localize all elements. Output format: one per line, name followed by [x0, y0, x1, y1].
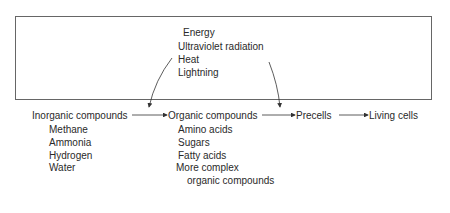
energy-source: Lightning — [178, 67, 219, 79]
inorganic-item: Hydrogen — [49, 150, 92, 162]
organic-item: Fatty acids — [178, 150, 226, 162]
inorganic-item: Water — [49, 162, 75, 174]
energy-title: Energy — [183, 27, 215, 39]
energy-to-precells-arrow — [269, 62, 280, 107]
energy-to-organic-arrow — [149, 58, 172, 107]
stage-label-inorganic: Inorganic compounds — [32, 110, 128, 122]
energy-source: Ultraviolet radiation — [178, 41, 264, 53]
stage-label-organic: Organic compounds — [168, 110, 258, 122]
organic-item: organic compounds — [187, 175, 274, 187]
inorganic-item: Methane — [49, 124, 88, 136]
organic-item: Sugars — [178, 137, 210, 149]
stage-label-precells: Precells — [296, 110, 332, 122]
energy-source: Heat — [178, 54, 199, 66]
inorganic-item: Ammonia — [49, 137, 91, 149]
organic-item: More complex — [176, 162, 239, 174]
stage-label-living-cells: Living cells — [369, 110, 418, 122]
organic-item: Amino acids — [178, 124, 232, 136]
